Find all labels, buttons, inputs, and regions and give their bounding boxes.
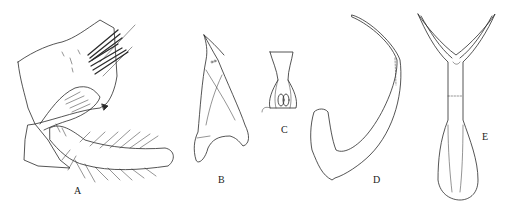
panel-label-e: E [482,132,488,142]
figure-drawing [0,0,505,214]
panel-label-c: C [281,125,288,135]
panel-label-d: D [373,175,380,185]
panel-d-drawing [311,15,401,180]
panel-a-drawing [18,20,173,182]
panel-c-drawing [262,52,297,112]
panel-b-drawing [194,35,248,162]
panel-label-b: B [218,175,225,185]
panel-e-drawing [418,14,495,200]
anatomical-figure: A B C D E [0,0,505,214]
panel-label-a: A [74,186,81,196]
